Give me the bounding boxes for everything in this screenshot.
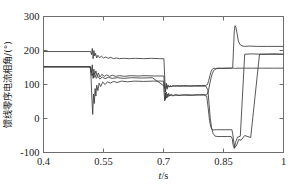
y-tick-label: -100: [20, 147, 39, 158]
x-tick-label: 0.55: [94, 156, 112, 167]
y-tick-label: 200: [24, 45, 40, 56]
y-tick-label: 0: [34, 113, 39, 124]
x-tick-label: 1: [281, 156, 286, 167]
y-tick-label: 300: [24, 11, 40, 22]
x-tick-label: 0.7: [157, 156, 170, 167]
x-axis-title-unit: /s: [161, 170, 168, 181]
chart-canvas: 0.40.550.70.851-1000100200300t/s馈线零序电流相角…: [0, 0, 293, 184]
y-tick-label: 100: [24, 79, 40, 90]
x-axis-title: t/s: [159, 170, 169, 181]
x-tick-label: 0.85: [214, 156, 232, 167]
figure-container: 0.40.550.70.851-1000100200300t/s馈线零序电流相角…: [0, 0, 293, 184]
y-axis-title: 馈线零序电流相角/(°): [2, 41, 13, 128]
